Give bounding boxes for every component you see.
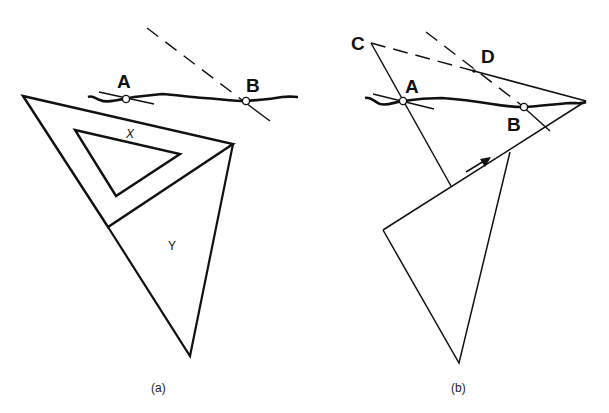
- label-x: X: [125, 127, 135, 141]
- label-a-panel-a: A: [117, 71, 131, 92]
- line-d-to-vertex: [474, 71, 586, 101]
- geometry-figure: A B X Y (a) C A D B (b): [0, 0, 609, 413]
- label-y: Y: [168, 239, 176, 253]
- caption-b: (b): [451, 381, 466, 395]
- set-square-x-outer: [23, 96, 233, 227]
- wavy-line-b: [365, 98, 586, 107]
- dashed-line-b: [426, 32, 520, 104]
- label-a-panel-b: A: [405, 76, 419, 97]
- triangle-b: [383, 152, 510, 363]
- dashed-line-c-d: [371, 43, 474, 71]
- label-c-panel-b: C: [351, 33, 365, 54]
- line-c-to-edge: [371, 43, 451, 186]
- label-d-panel-b: D: [481, 46, 495, 67]
- point-b-marker-b: [520, 103, 527, 110]
- point-a-marker-b: [399, 97, 406, 104]
- point-a-marker-a: [122, 95, 129, 102]
- point-b-marker-a: [242, 97, 249, 104]
- wavy-line-a: [88, 94, 298, 102]
- label-b-panel-b: B: [507, 114, 521, 135]
- point-d-marker: [472, 69, 476, 73]
- label-b-panel-a: B: [246, 75, 260, 96]
- dashed-line-a: [147, 28, 242, 100]
- panel-b: [365, 32, 586, 363]
- caption-a: (a): [151, 381, 166, 395]
